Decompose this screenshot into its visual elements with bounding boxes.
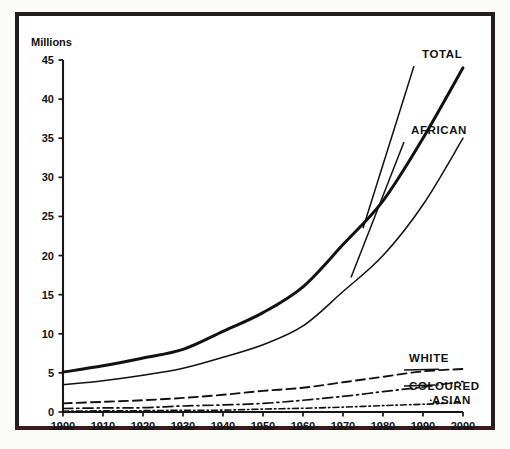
- series-label-asian: ASIAN: [432, 394, 471, 406]
- leader-line-white: [404, 369, 439, 370]
- plot-area: 0510152025303540451900191019201930194019…: [0, 0, 510, 449]
- y-tick-label: 0: [48, 406, 54, 418]
- axes-group: 0510152025303540451900191019201930194019…: [42, 54, 475, 432]
- x-tick-label: 1900: [51, 420, 75, 432]
- series-label-group: TOTALAFRICANWHITECOLOUREDASIAN: [351, 48, 480, 406]
- x-tick-label: 1980: [371, 420, 395, 432]
- series-line-white: [63, 369, 463, 403]
- chart-svg: 0510152025303540451900191019201930194019…: [0, 0, 510, 449]
- series-label-total: TOTAL: [422, 48, 462, 60]
- series-line-african: [63, 138, 463, 384]
- x-tick-label: 1930: [171, 420, 195, 432]
- y-tick-label: 20: [42, 250, 54, 262]
- series-label-coloured: COLOURED: [409, 380, 480, 392]
- x-tick-label: 1990: [411, 420, 435, 432]
- series-line-total: [63, 68, 463, 372]
- x-tick-label: 1960: [291, 420, 315, 432]
- x-tick-label: 1970: [331, 420, 355, 432]
- x-tick-label: 1910: [91, 420, 115, 432]
- y-tick-label: 35: [42, 132, 54, 144]
- y-tick-label: 10: [42, 328, 54, 340]
- y-tick-label: 45: [42, 54, 54, 66]
- y-tick-label: 40: [42, 93, 54, 105]
- x-tick-label: 1940: [211, 420, 235, 432]
- x-tick-label: 2000: [451, 420, 475, 432]
- leader-line-african: [351, 142, 404, 277]
- y-tick-label: 15: [42, 289, 54, 301]
- series-label-white: WHITE: [409, 352, 449, 364]
- series-label-african: AFRICAN: [411, 124, 467, 136]
- series-group: [63, 68, 463, 411]
- y-tick-label: 30: [42, 171, 54, 183]
- leader-line-total: [363, 66, 414, 228]
- y-tick-label: 25: [42, 210, 54, 222]
- x-tick-label: 1920: [131, 420, 155, 432]
- chart-root: 0510152025303540451900191019201930194019…: [0, 0, 510, 449]
- y-axis-title: Millions: [31, 36, 72, 48]
- y-tick-label: 5: [48, 367, 54, 379]
- x-tick-label: 1950: [251, 420, 275, 432]
